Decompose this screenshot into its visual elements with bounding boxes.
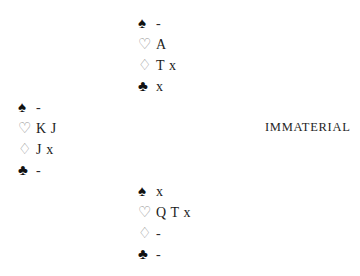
hand-south: ♠ x ♡ Q T x ♢ - ♣ -	[138, 181, 191, 265]
diamond-icon: ♢	[138, 55, 155, 76]
heart-icon: ♡	[18, 118, 35, 139]
hand-north-row-spades: ♠ -	[138, 13, 177, 34]
hand-north-row-clubs: ♣ x	[138, 76, 177, 97]
hand-west-row-clubs: ♣ -	[18, 160, 57, 181]
hand-west-clubs-holding: -	[35, 160, 41, 181]
hand-north-row-hearts: ♡ A	[138, 34, 177, 55]
hand-south-row-diamonds: ♢ -	[138, 223, 191, 244]
hand-south-row-spades: ♠ x	[138, 181, 191, 202]
hand-north-diamonds-holding: T x	[155, 55, 177, 76]
hand-south-clubs-holding: -	[155, 244, 161, 265]
diamond-icon: ♢	[18, 139, 35, 160]
hand-south-spades-holding: x	[155, 181, 164, 202]
hand-west-diamonds-holding: J x	[35, 139, 54, 160]
hand-west-row-spades: ♠ -	[18, 97, 57, 118]
club-icon: ♣	[138, 244, 155, 265]
spade-icon: ♠	[138, 181, 155, 202]
spade-icon: ♠	[18, 97, 35, 118]
hand-north-row-diamonds: ♢ T x	[138, 55, 177, 76]
hand-north-hearts-holding: A	[155, 34, 167, 55]
hand-east-note: IMMATERIAL	[265, 119, 350, 135]
hand-west-row-diamonds: ♢ J x	[18, 139, 57, 160]
hand-south-hearts-holding: Q T x	[155, 202, 191, 223]
hand-south-row-hearts: ♡ Q T x	[138, 202, 191, 223]
hand-south-diamonds-holding: -	[155, 223, 161, 244]
diamond-icon: ♢	[138, 223, 155, 244]
hand-west: ♠ - ♡ K J ♢ J x ♣ -	[18, 97, 57, 181]
bridge-hand-diagram: ♠ - ♡ A ♢ T x ♣ x ♠ - ♡ K J ♢ J x ♣	[0, 0, 360, 276]
hand-south-row-clubs: ♣ -	[138, 244, 191, 265]
hand-west-hearts-holding: K J	[35, 118, 57, 139]
heart-icon: ♡	[138, 202, 155, 223]
heart-icon: ♡	[138, 34, 155, 55]
spade-icon: ♠	[138, 13, 155, 34]
hand-north-clubs-holding: x	[155, 76, 164, 97]
hand-west-row-hearts: ♡ K J	[18, 118, 57, 139]
club-icon: ♣	[138, 76, 155, 97]
hand-north-spades-holding: -	[155, 13, 161, 34]
club-icon: ♣	[18, 160, 35, 181]
hand-north: ♠ - ♡ A ♢ T x ♣ x	[138, 13, 177, 97]
hand-west-spades-holding: -	[35, 97, 41, 118]
